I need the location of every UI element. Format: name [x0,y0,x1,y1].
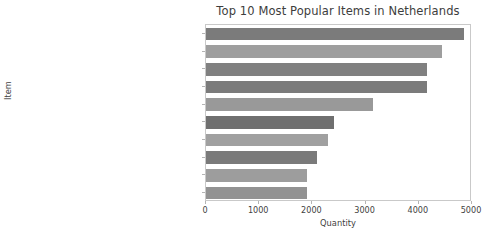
y-axis-label: Item [3,81,13,100]
x-axis-label: Quantity [205,218,471,228]
x-tick-label-0: 0 [202,205,207,215]
bar-3 [206,81,427,94]
y-tick-mark-2 [202,68,205,69]
y-tick-mark-6 [202,139,205,140]
x-tick-mark-0 [205,201,206,204]
x-tick-mark-2 [311,201,312,204]
plot-area [205,24,471,201]
bar-5 [206,116,334,129]
x-tick-label-5: 5000 [461,205,482,215]
x-tick-mark-4 [418,201,419,204]
x-tick-label-4: 4000 [407,205,428,215]
bar-2 [206,63,427,76]
x-tick-label-3: 3000 [354,205,375,215]
y-tick-mark-1 [202,51,205,52]
x-tick-mark-1 [258,201,259,204]
y-tick-mark-9 [202,192,205,193]
y-tick-mark-8 [202,174,205,175]
bar-row [206,167,470,185]
bar-row [206,131,470,149]
x-tick-label-1: 1000 [248,205,269,215]
y-tick-mark-7 [202,157,205,158]
bar-row [206,96,470,114]
bar-4 [206,98,373,111]
chart-title: Top 10 Most Popular Items in Netherlands [205,4,471,18]
bar-row [206,78,470,96]
bar-row [206,149,470,167]
bar-row [206,184,470,202]
x-tick-label-2: 2000 [301,205,322,215]
bar-1 [206,45,442,58]
bar-row [206,43,470,61]
y-tick-mark-5 [202,121,205,122]
y-tick-mark-4 [202,104,205,105]
bar-6 [206,134,328,147]
bar-9 [206,187,307,200]
bar-chart-figure: Top 10 Most Popular Items in Netherlands… [0,0,488,241]
bar-row [206,60,470,78]
bar-row [206,25,470,43]
x-tick-mark-5 [471,201,472,204]
bar-row [206,113,470,131]
bar-8 [206,169,307,182]
bar-7 [206,151,317,164]
y-tick-mark-3 [202,86,205,87]
bar-0 [206,28,464,41]
x-tick-mark-3 [365,201,366,204]
y-tick-mark-0 [202,33,205,34]
